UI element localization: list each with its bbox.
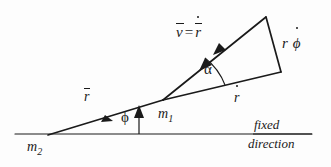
mass-one-label: m1 — [158, 107, 173, 124]
velocity-vector-label: v=r — [176, 25, 201, 40]
dot-accent-glyph — [296, 27, 298, 29]
vector-diagram-figure: v=r r ϕ α r r ϕ m1 m2 fixed direction — [0, 0, 331, 167]
position-vector-label: r — [84, 90, 89, 104]
r-symbol: r — [282, 35, 288, 51]
m-symbol: m — [158, 106, 168, 121]
phi-dot-symbol: ϕ — [293, 36, 301, 51]
mass-two-label: m2 — [27, 140, 42, 157]
velocity-vector-arrowhead — [213, 43, 226, 55]
phi-angle-label: ϕ — [121, 110, 129, 125]
fixed-direction-label-line2: direction — [248, 137, 294, 150]
r-dot-symbol: r — [234, 91, 239, 105]
overbar-glyph — [176, 23, 184, 24]
r-bar-symbol: r — [84, 90, 89, 104]
overbar-glyph — [195, 23, 202, 24]
transverse-component-line — [266, 17, 281, 72]
m-symbol: m — [27, 139, 37, 154]
dot-accent-glyph — [236, 85, 238, 87]
alpha-angle-label: α — [204, 62, 212, 77]
transverse-component-label: r ϕ — [282, 36, 301, 51]
v-bar-symbol: v — [176, 25, 183, 40]
equals-sign: = — [183, 24, 195, 40]
overbar-glyph — [84, 88, 90, 89]
r-bar-dot-symbol: r — [195, 25, 201, 40]
dot-accent-glyph — [197, 16, 199, 18]
radial-component-label: r — [234, 91, 239, 105]
mass-one-subscript: 1 — [168, 113, 173, 124]
mass-two-subscript: 2 — [37, 146, 42, 157]
fixed-direction-label-line1: fixed — [254, 118, 279, 131]
